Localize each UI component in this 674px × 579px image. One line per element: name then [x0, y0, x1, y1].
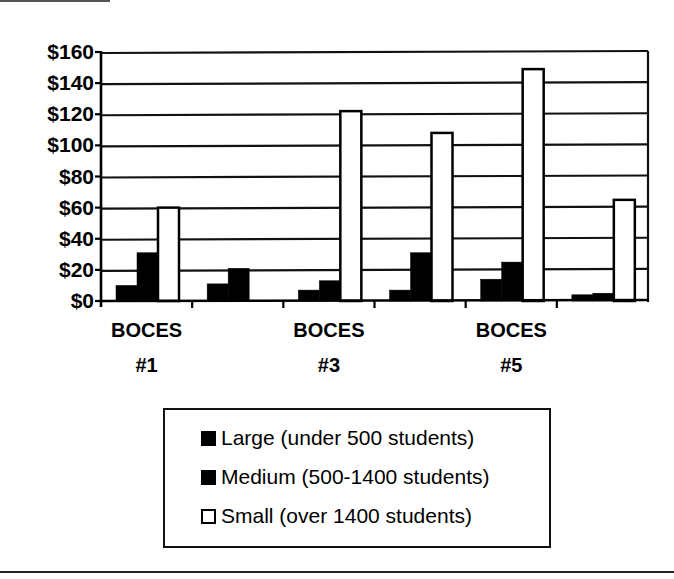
x-tick-label: #1	[135, 354, 157, 376]
gridline	[101, 176, 648, 178]
gridline	[101, 238, 648, 240]
y-tick-label: $140	[47, 71, 94, 94]
y-tick-label: $160	[47, 40, 94, 63]
gridlines	[101, 51, 648, 302]
bar	[340, 111, 361, 301]
bar	[116, 285, 137, 301]
bottom-rule	[0, 571, 674, 573]
x-tick-label: #5	[500, 354, 522, 376]
y-tick-label: $40	[59, 227, 94, 250]
legend-swatch-large-icon	[201, 431, 216, 446]
y-tick-label: $20	[59, 258, 94, 281]
bar	[614, 200, 635, 301]
legend-item-large: Large (under 500 students)	[201, 426, 474, 450]
x-tick-label: BOCES	[293, 319, 364, 341]
y-tick-label: $60	[59, 196, 94, 219]
bar	[481, 279, 502, 301]
legend-swatch-medium-icon	[201, 470, 216, 485]
gridline	[101, 269, 648, 271]
x-tick-label: BOCES	[476, 319, 547, 341]
gridline	[101, 207, 648, 209]
y-tick-label: $120	[47, 102, 94, 125]
bar-chart: $0$20$40$60$80$100$120$140$160 BOCES#1BO…	[0, 0, 674, 400]
legend-label-medium: Medium (500-1400 students)	[221, 465, 489, 489]
y-tick-label: $0	[71, 289, 94, 312]
legend: Large (under 500 students) Medium (500-1…	[163, 408, 551, 548]
x-tick-label: #3	[318, 354, 340, 376]
bar	[207, 284, 228, 301]
gridline	[101, 82, 648, 84]
bar	[523, 69, 544, 301]
gridline	[101, 51, 648, 53]
legend-label-small: Small (over 1400 students)	[221, 504, 472, 528]
gridline	[101, 113, 648, 115]
y-tick-label: $100	[47, 133, 94, 156]
bar	[432, 133, 453, 301]
legend-swatch-small-icon	[201, 509, 216, 524]
legend-item-small: Small (over 1400 students)	[201, 504, 472, 528]
bar	[158, 208, 179, 301]
bar	[502, 262, 523, 301]
bar	[137, 253, 158, 301]
x-axis	[100, 300, 649, 301]
x-tick-label: BOCES	[111, 319, 182, 341]
bar	[319, 281, 340, 301]
gridline	[101, 144, 648, 146]
y-tick-label: $80	[59, 165, 94, 188]
bars	[116, 69, 635, 301]
bar	[411, 253, 432, 301]
y-axis-tick-labels: $0$20$40$60$80$100$120$140$160	[47, 40, 94, 312]
x-axis-tick-labels: BOCES#1BOCES#3BOCES#5	[111, 319, 547, 376]
bar	[228, 268, 249, 301]
legend-label-large: Large (under 500 students)	[221, 426, 474, 450]
legend-item-medium: Medium (500-1400 students)	[201, 465, 489, 489]
